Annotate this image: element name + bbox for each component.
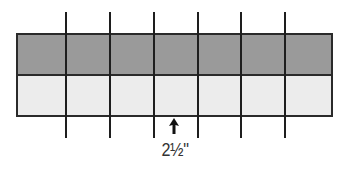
cut-line-4 (197, 12, 199, 138)
cut-line-3 (153, 12, 155, 138)
cut-line-6 (284, 12, 286, 138)
arrow-up-icon (168, 118, 180, 134)
cut-line-1 (65, 12, 67, 138)
measurement-label: 2½" (154, 139, 197, 161)
cut-line-5 (240, 12, 242, 138)
cut-line-2 (109, 12, 111, 138)
